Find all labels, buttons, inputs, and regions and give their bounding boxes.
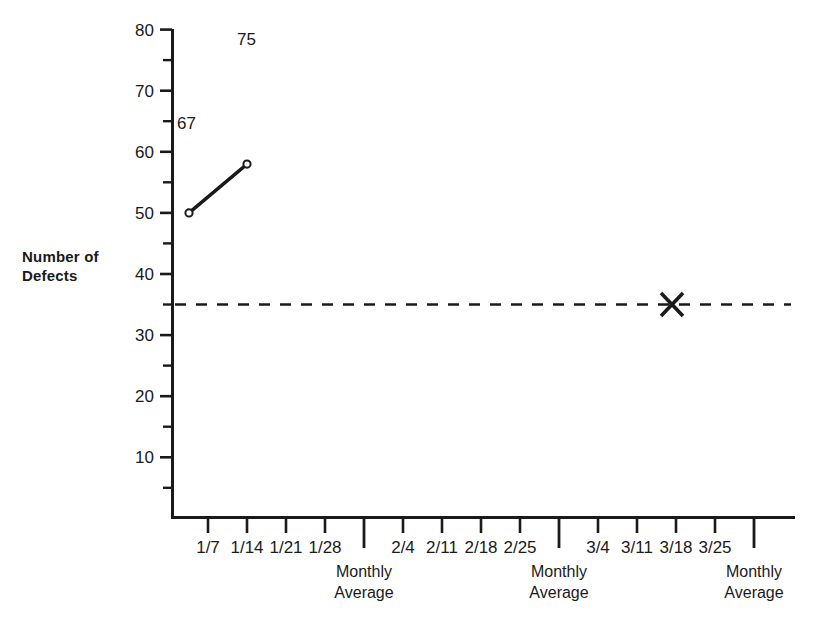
x-tick-label-1-7: 1/7 [196,539,220,556]
x-tick-label-2-11: 2/11 [426,539,458,556]
y-tick-label-50: 50 [108,205,154,222]
series-line-weekly-defects [189,164,247,213]
y-tick-label-10: 10 [108,449,154,466]
x-axis-monthly-average-ticks [364,518,754,548]
y-tick-label-60: 60 [108,144,154,161]
data-point-marker [185,209,192,216]
monthly-average-caption-march: Monthly Average [694,562,814,604]
y-tick-label-80: 80 [108,22,154,39]
data-point-label-67: 67 [177,115,196,132]
monthly-average-caption-february: Monthly Average [499,562,619,604]
data-point-label-75: 75 [237,31,256,48]
x-tick-label-3-4: 3/4 [586,539,610,556]
data-point-marker [243,161,250,168]
y-tick-label-20: 20 [108,388,154,405]
y-tick-label-40: 40 [108,266,154,283]
x-tick-label-1-21: 1/21 [269,539,302,556]
y-tick-label-70: 70 [108,83,154,100]
x-tick-label-2-18: 2/18 [464,539,497,556]
x-tick-label-3-11: 3/11 [621,539,653,556]
x-tick-label-3-25: 3/25 [698,539,731,556]
x-tick-label-3-18: 3/18 [659,539,692,556]
x-tick-label-1-28: 1/28 [308,539,341,556]
y-tick-label-30: 30 [108,327,154,344]
defects-run-chart: Number of Defects 80 70 60 50 40 30 20 1… [0,0,821,626]
x-tick-label-2-25: 2/25 [503,539,536,556]
monthly-average-caption-january: Monthly Average [304,562,424,604]
x-axis-week-ticks [208,518,715,533]
x-tick-label-2-4: 2/4 [391,539,415,556]
x-tick-label-1-14: 1/14 [230,539,263,556]
